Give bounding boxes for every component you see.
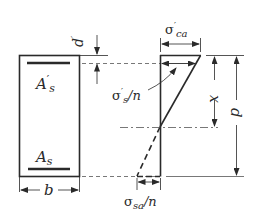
beam-section-diagram: A′s As b d′ σ′ca σ′s/n σsa/n x d [0, 0, 258, 223]
cover-depth-label: d′ [69, 35, 86, 47]
stress-diagram [137, 55, 201, 177]
neutral-axis-depth-label: x [207, 95, 223, 103]
tension-steel-stress-label: σsa/n [124, 194, 157, 211]
width-label: b [44, 181, 54, 199]
svg-text:d′: d′ [69, 35, 86, 47]
tension-steel-label: As [34, 148, 53, 168]
concrete-stress-dimension [161, 38, 201, 52]
tension-stress-dimension [137, 178, 161, 190]
svg-text:d: d [227, 108, 245, 118]
compression-steel-stress-label: σ′s/n [112, 87, 141, 105]
concrete-stress-label: σ′ca [165, 21, 188, 39]
effective-depth-label: d [227, 108, 245, 118]
compression-steel-label: A′s [34, 73, 55, 95]
svg-text:x: x [207, 95, 223, 103]
